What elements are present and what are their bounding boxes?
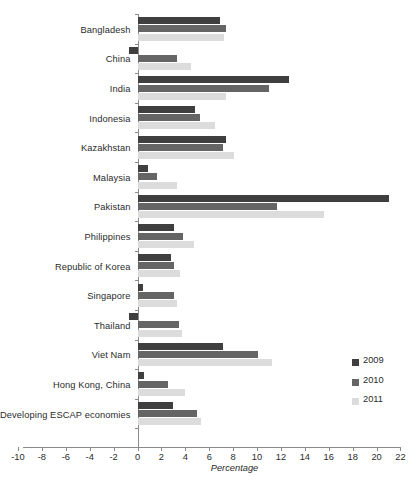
plot-area: BangladeshChinaIndiaIndonesiaKazakhstanM… xyxy=(23,14,401,447)
bar-2011 xyxy=(138,270,180,277)
x-tick-label: -8 xyxy=(38,452,46,462)
category-label: Hong Kong, China xyxy=(53,380,131,390)
x-tick-label: 16 xyxy=(324,452,334,462)
category-label: Republic of Korea xyxy=(55,262,131,272)
bar-2009 xyxy=(138,136,226,143)
bar-2010 xyxy=(138,203,277,210)
category-label: Singapore xyxy=(87,291,130,301)
x-tick-label: 22 xyxy=(395,452,405,462)
category-label: India xyxy=(110,84,131,94)
bar-2010 xyxy=(138,25,226,32)
legend-swatch-icon xyxy=(352,379,359,386)
bar-2009 xyxy=(138,254,171,261)
bar-2009 xyxy=(129,313,137,320)
bar-2010 xyxy=(138,381,168,388)
legend-item[interactable]: 2010 xyxy=(352,375,412,395)
category-label: Pakistan xyxy=(94,202,130,212)
bar-2009 xyxy=(138,343,223,350)
x-tick-label: 0 xyxy=(135,452,140,462)
bar-2009 xyxy=(138,165,148,172)
category-label: Viet Nam xyxy=(92,350,131,360)
x-tick-mark xyxy=(138,447,139,451)
x-tick-label: -2 xyxy=(109,452,117,462)
bar-2009 xyxy=(138,195,389,202)
x-tick-mark xyxy=(66,447,67,451)
bar-2009 xyxy=(138,284,143,291)
x-tick-label: 4 xyxy=(183,452,188,462)
bar-2011 xyxy=(138,122,215,129)
legend-label: 2009 xyxy=(363,355,384,365)
bar-2010 xyxy=(138,351,258,358)
category-label: Malaysia xyxy=(93,173,130,183)
x-tick-label: -4 xyxy=(86,452,94,462)
x-axis: -10-8-6-4-20246810121416182022 xyxy=(23,447,401,448)
bar-2010 xyxy=(138,144,223,151)
bar-2010 xyxy=(138,173,157,180)
x-tick-mark xyxy=(42,447,43,451)
legend-item[interactable]: 2011 xyxy=(352,394,412,414)
x-axis-title: Percentage xyxy=(0,463,417,473)
category-row: Indonesia xyxy=(23,104,401,134)
category-row: Malaysia xyxy=(23,163,401,193)
x-tick-mark xyxy=(185,447,186,451)
x-tick-label: 20 xyxy=(371,452,381,462)
legend-label: 2011 xyxy=(363,394,383,404)
category-label: Indonesia xyxy=(89,114,130,124)
x-tick-label: 2 xyxy=(159,452,164,462)
x-tick-mark xyxy=(281,447,282,451)
x-tick-label: 14 xyxy=(300,452,310,462)
category-row: Kazakhstan xyxy=(23,133,401,163)
x-tick-mark xyxy=(90,447,91,451)
legend: 200920102011 xyxy=(352,355,412,414)
category-row: Bangladesh xyxy=(23,15,401,45)
bar-2011 xyxy=(138,389,185,396)
bar-2009 xyxy=(138,76,289,83)
bar-2009 xyxy=(138,224,174,231)
bar-2009 xyxy=(138,17,220,24)
x-tick-mark xyxy=(305,447,306,451)
bar-2011 xyxy=(138,330,182,337)
x-tick-mark xyxy=(329,447,330,451)
bar-2010 xyxy=(138,321,179,328)
legend-label: 2010 xyxy=(363,375,384,385)
bar-2010 xyxy=(138,114,200,121)
bar-2009 xyxy=(129,47,137,54)
x-tick-mark xyxy=(161,447,162,451)
bar-2010 xyxy=(138,233,183,240)
bar-2011 xyxy=(138,182,177,189)
legend-item[interactable]: 2009 xyxy=(352,355,412,375)
x-tick-label: 12 xyxy=(276,452,286,462)
category-label: Bangladesh xyxy=(80,25,130,35)
bar-2010 xyxy=(138,85,269,92)
x-tick-label: 10 xyxy=(252,452,262,462)
category-row: China xyxy=(23,45,401,75)
category-row: Singapore xyxy=(23,281,401,311)
x-tick-mark xyxy=(114,447,115,451)
category-label: Kazakhstan xyxy=(81,143,131,153)
x-tick-mark xyxy=(18,447,19,451)
bar-2010 xyxy=(138,55,177,62)
category-row: India xyxy=(23,74,401,104)
bar-2009 xyxy=(138,372,144,379)
x-tick-label: 6 xyxy=(207,452,212,462)
legend-swatch-icon xyxy=(352,359,359,366)
category-row: Hong Kong, China xyxy=(23,370,401,400)
category-label: Thailand xyxy=(94,321,130,331)
category-row: Thailand xyxy=(23,311,401,341)
x-tick-mark xyxy=(377,447,378,451)
x-tick-mark xyxy=(257,447,258,451)
bar-2009 xyxy=(138,106,195,113)
category-row: Republic of Korea xyxy=(23,252,401,282)
bar-2011 xyxy=(138,418,201,425)
bar-2009 xyxy=(138,402,173,409)
x-tick-label: -10 xyxy=(11,452,24,462)
bar-2011 xyxy=(138,359,272,366)
bar-chart: BangladeshChinaIndiaIndonesiaKazakhstanM… xyxy=(0,0,417,482)
bar-2010 xyxy=(138,262,174,269)
x-tick-label: -6 xyxy=(62,452,70,462)
category-label: China xyxy=(106,54,131,64)
category-label: Developing ESCAP economies xyxy=(0,410,131,420)
x-tick-mark xyxy=(353,447,354,451)
category-row: Pakistan xyxy=(23,193,401,223)
legend-items: 200920102011 xyxy=(352,355,412,414)
